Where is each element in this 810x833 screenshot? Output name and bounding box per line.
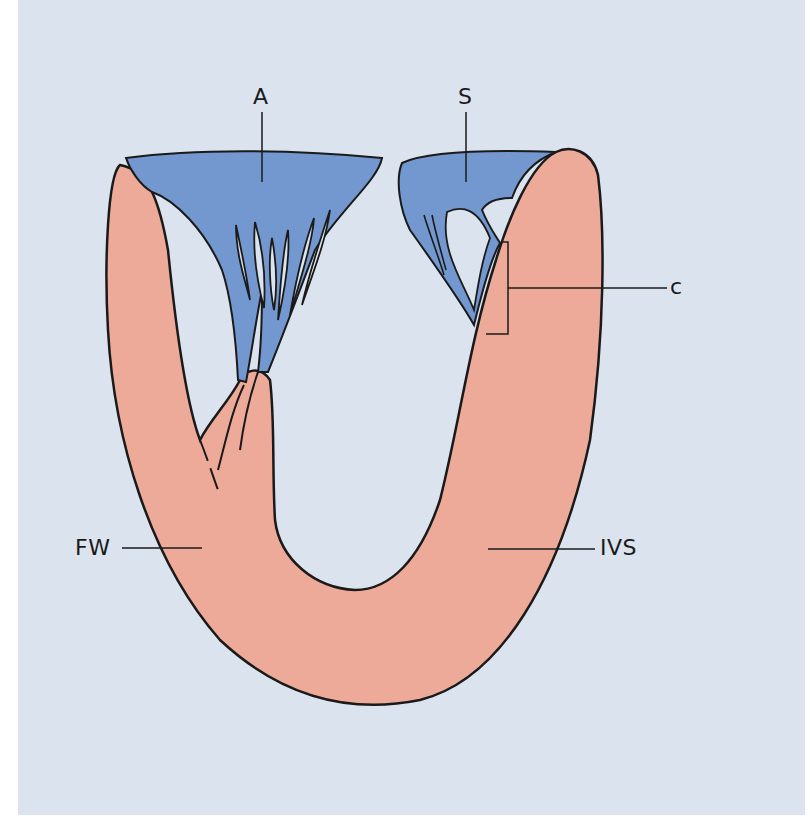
label-interventricular-septum: IVS — [600, 537, 637, 559]
label-anterior-leaflet: A — [253, 86, 269, 108]
heart-ventricle-diagram — [0, 0, 810, 833]
label-free-wall: FW — [75, 537, 110, 559]
label-septal-leaflet: S — [458, 86, 472, 108]
myocardium — [107, 149, 603, 705]
label-chordae: c — [670, 276, 683, 298]
septal-chordae-gap — [446, 209, 490, 310]
